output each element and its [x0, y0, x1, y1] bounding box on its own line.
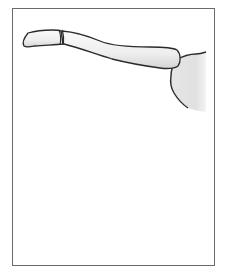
clavicle-shaft: [62, 31, 181, 69]
clavicle-fragment: [23, 30, 63, 47]
clavicle-illustration: [0, 0, 227, 273]
